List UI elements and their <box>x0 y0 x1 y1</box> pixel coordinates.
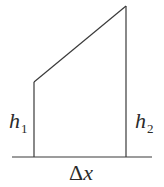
label-h1-subscript: 1 <box>21 121 28 136</box>
trapezoid-diagram: h 1 h 2 Δx <box>0 0 164 187</box>
label-h2-subscript: 2 <box>147 121 154 136</box>
x-variable: x <box>82 160 93 185</box>
slanted-top <box>34 6 126 82</box>
label-delta-x: Δx <box>69 160 93 185</box>
h1-symbol: h <box>9 108 20 133</box>
label-h2: h <box>135 108 146 133</box>
h2-symbol: h <box>135 108 146 133</box>
delta-symbol: Δ <box>69 160 83 185</box>
label-h1: h <box>9 108 20 133</box>
